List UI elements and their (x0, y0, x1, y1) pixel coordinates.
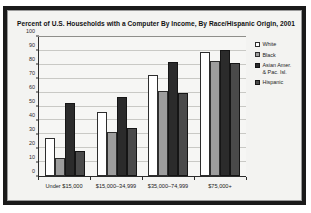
bar-group (39, 37, 91, 176)
y-tick-label: 0 (16, 168, 35, 174)
y-tick-mark (36, 50, 39, 51)
legend-item[interactable]: Black (255, 52, 302, 58)
x-tick-mark (194, 177, 195, 180)
legend-label: Hispanic (263, 79, 284, 85)
bars-layer (39, 37, 246, 176)
y-tick-mark (36, 106, 39, 107)
legend-label: Asian Amer.& Pac. Isl. (263, 62, 292, 74)
y-tick-mark (36, 134, 39, 135)
x-tick-mark (90, 177, 91, 180)
y-tick-label: 30 (16, 126, 35, 132)
bar-group (143, 37, 195, 176)
bar[interactable] (107, 132, 117, 176)
legend-item[interactable]: White (255, 41, 302, 47)
y-tick-label: 20 (16, 140, 35, 146)
y-tick-mark (36, 120, 39, 121)
y-tick-mark (36, 36, 39, 37)
x-category-label: $75,000+ (208, 183, 232, 189)
x-category-label: Under $15,000 (45, 183, 82, 189)
y-tick-label: 90 (16, 42, 35, 48)
legend-swatch-icon (255, 63, 260, 68)
bar[interactable] (117, 97, 127, 176)
y-tick-mark (36, 92, 39, 93)
legend-item[interactable]: Hispanic (255, 79, 302, 85)
bar[interactable] (45, 138, 55, 176)
y-tick-mark (36, 148, 39, 149)
bar[interactable] (210, 61, 220, 176)
bar[interactable] (168, 62, 178, 176)
y-tick-label: 70 (16, 70, 35, 76)
legend-swatch-icon (255, 52, 260, 57)
y-tick-mark (36, 78, 39, 79)
bar[interactable] (200, 52, 210, 176)
plot-wrapper: 0102030405060708090100 Under $15,000$15,… (38, 37, 246, 177)
chart-legend: WhiteBlackAsian Amer.& Pac. Isl.Hispanic (255, 41, 302, 90)
y-tick-label: 50 (16, 98, 35, 104)
plot-area (38, 37, 246, 177)
bar[interactable] (178, 93, 188, 176)
legend-item[interactable]: Asian Amer.& Pac. Isl. (255, 62, 302, 74)
bar[interactable] (55, 158, 65, 176)
y-tick-label: 80 (16, 56, 35, 62)
chart-canvas: Percent of U.S. Households with a Comput… (7, 10, 302, 201)
x-tick-mark (246, 177, 247, 180)
bar[interactable] (220, 50, 230, 176)
y-tick-label: 60 (16, 84, 35, 90)
x-tick-mark (142, 177, 143, 180)
bar[interactable] (97, 112, 107, 176)
x-category-label: $35,000–74,999 (148, 183, 188, 189)
bar[interactable] (75, 151, 85, 176)
x-tick-mark (38, 177, 39, 180)
y-tick-mark (36, 64, 39, 65)
bar[interactable] (65, 103, 75, 176)
chart-title: Percent of U.S. Households with a Comput… (17, 20, 295, 27)
chart-frame: Percent of U.S. Households with a Comput… (3, 6, 306, 205)
legend-label: White (263, 41, 277, 47)
bar[interactable] (230, 63, 240, 176)
y-tick-label: 40 (16, 112, 35, 118)
y-tick-label: 10 (16, 154, 35, 160)
x-category-label: $15,000–34,999 (96, 183, 136, 189)
y-tick-label: 100 (16, 28, 35, 34)
y-tick-mark (36, 162, 39, 163)
bar-group (91, 37, 143, 176)
bar[interactable] (127, 128, 137, 176)
x-axis: Under $15,000$15,000–34,999$35,000–74,99… (38, 177, 246, 201)
bar-group (194, 37, 246, 176)
legend-swatch-icon (255, 80, 260, 85)
legend-label: Black (263, 52, 276, 58)
bar[interactable] (148, 75, 158, 176)
bar[interactable] (158, 91, 168, 176)
legend-swatch-icon (255, 42, 260, 47)
